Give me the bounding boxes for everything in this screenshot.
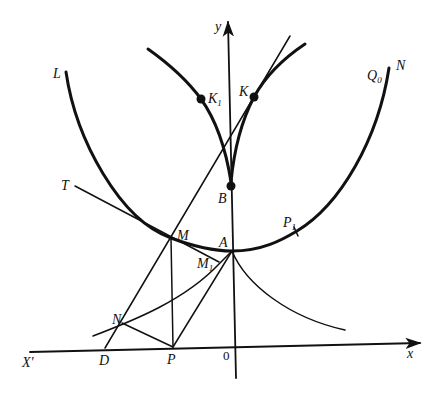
label-Q0-main: Q (367, 68, 377, 83)
label-K: K (238, 84, 249, 99)
label-P1: P1 (282, 215, 296, 232)
point-K1-dot (197, 95, 206, 104)
label-Q0-sub: 0 (377, 75, 382, 85)
label-M1-sub: 1 (209, 263, 214, 273)
tangent-TM (75, 186, 219, 262)
label-y: y (213, 19, 222, 34)
line-DM (105, 36, 290, 348)
label-origin: 0 (223, 348, 230, 363)
label-P1-main: P (282, 215, 292, 230)
label-x-negative: X' (21, 355, 35, 370)
label-M1: M1 (196, 256, 213, 273)
segment-NP (122, 323, 173, 347)
evolute-right-branch (231, 44, 305, 182)
label-N-top: N (395, 58, 406, 73)
label-L: L (52, 66, 61, 81)
point-K-dot (250, 93, 259, 102)
label-x: x (406, 346, 414, 361)
label-T: T (61, 178, 70, 193)
point-B-dot (227, 182, 236, 191)
label-B: B (218, 191, 227, 206)
tractrix-right (232, 251, 345, 330)
label-K1: K1 (207, 91, 222, 108)
segment-MP (171, 238, 173, 347)
label-P: P (166, 352, 176, 367)
label-N: N (111, 312, 122, 327)
label-D: D (98, 353, 109, 368)
diagram-svg: y x X' 0 L N Q0 K1 K B T M A P1 M1 N D P (0, 0, 442, 400)
evolute-left-branch (148, 49, 231, 182)
diagram-canvas: y x X' 0 L N Q0 K1 K B T M A P1 M1 N D P (0, 0, 442, 400)
label-A: A (218, 235, 228, 250)
label-P1-sub: 1 (292, 222, 297, 232)
y-axis (228, 22, 236, 378)
label-Q0: Q0 (367, 68, 382, 85)
label-K1-main: K (207, 91, 218, 106)
label-K1-sub: 1 (217, 98, 222, 108)
label-M: M (176, 228, 190, 243)
